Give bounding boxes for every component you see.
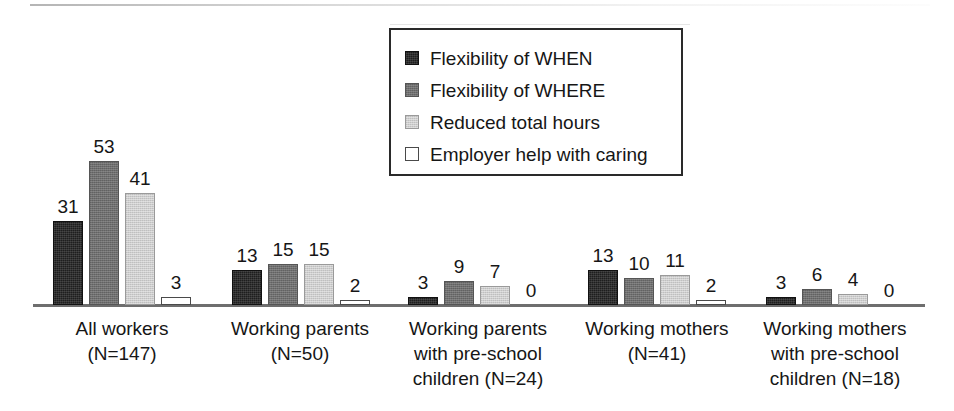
- bar-flexibility-when-group-1: [53, 221, 83, 305]
- bar-value-label-reduced-hours-group-2: 15: [296, 240, 342, 259]
- bar-flexibility-where-group-1: [89, 161, 119, 305]
- category-label-5: Working mothers with pre-school children…: [744, 316, 926, 391]
- bar-employer-caring-group-1: [161, 297, 191, 305]
- category-axis-labels: All workers (N=147)Working parents (N=50…: [0, 316, 954, 411]
- legend-swatch-reduced-hours-icon: [405, 115, 419, 129]
- bar-reduced-hours-group-4: [660, 275, 690, 305]
- legend-swatch-flexibility-where-icon: [405, 83, 419, 97]
- bar-value-label-employer-caring-group-3: 0: [508, 281, 554, 300]
- legend-label: Flexibility of WHEN: [430, 49, 593, 68]
- bar-value-label-reduced-hours-group-1: 41: [117, 169, 163, 188]
- bar-reduced-hours-group-5: [838, 294, 868, 305]
- legend-item: Flexibility of WHEN: [405, 42, 681, 74]
- bar-value-label-employer-caring-group-5: 0: [866, 281, 912, 300]
- bar-value-label-employer-caring-group-4: 2: [688, 276, 734, 295]
- bar-reduced-hours-group-2: [304, 264, 334, 305]
- category-label-4: Working mothers (N=41): [566, 316, 748, 366]
- bar-flexibility-where-group-4: [624, 278, 654, 305]
- bar-flexibility-where-group-3: [444, 281, 474, 305]
- bar-flexibility-when-group-5: [766, 297, 796, 305]
- legend-item: Employer help with caring: [405, 138, 681, 170]
- bar-flexibility-when-group-3: [408, 297, 438, 305]
- legend-item: Flexibility of WHERE: [405, 74, 681, 106]
- bar-flexibility-when-group-4: [588, 270, 618, 305]
- category-label-2: Working parents (N=50): [209, 316, 391, 366]
- bar-value-label-flexibility-when-group-1: 31: [45, 197, 91, 216]
- bar-value-label-flexibility-where-group-1: 53: [81, 137, 127, 156]
- legend-label: Employer help with caring: [430, 145, 648, 164]
- bar-employer-caring-group-2: [340, 300, 370, 305]
- legend-label: Flexibility of WHERE: [430, 81, 605, 100]
- bar-flexibility-where-group-2: [268, 264, 298, 305]
- bar-flexibility-where-group-5: [802, 289, 832, 305]
- bar-chart: 31534131315152397013101123640 Flexibilit…: [0, 0, 954, 411]
- category-label-3: Working parents with pre-school children…: [387, 316, 569, 391]
- bar-reduced-hours-group-3: [480, 286, 510, 305]
- chart-legend: Flexibility of WHEN Flexibility of WHERE…: [389, 28, 683, 176]
- bar-value-label-reduced-hours-group-3: 7: [472, 262, 518, 281]
- bar-value-label-employer-caring-group-1: 3: [153, 273, 199, 292]
- bar-value-label-employer-caring-group-2: 2: [332, 276, 378, 295]
- bar-employer-caring-group-4: [696, 300, 726, 305]
- bar-flexibility-when-group-2: [232, 270, 262, 305]
- legend-swatch-flexibility-when-icon: [405, 51, 419, 65]
- legend-item: Reduced total hours: [405, 106, 681, 138]
- legend-label: Reduced total hours: [430, 113, 600, 132]
- bar-reduced-hours-group-1: [125, 193, 155, 305]
- category-label-1: All workers (N=147): [31, 316, 213, 366]
- bar-value-label-reduced-hours-group-4: 11: [652, 251, 698, 270]
- legend-swatch-employer-caring-icon: [405, 147, 419, 161]
